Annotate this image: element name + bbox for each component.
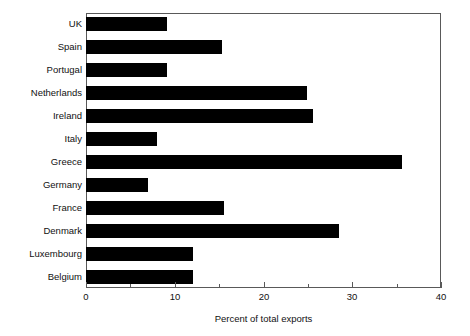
category-label-netherlands: Netherlands: [0, 86, 82, 100]
category-label-italy: Italy: [0, 132, 82, 146]
category-label-denmark: Denmark: [0, 224, 82, 238]
x-tick-major: [441, 282, 442, 288]
bar: [86, 247, 193, 261]
category-label-ireland: Ireland: [0, 109, 82, 123]
bar-row: [86, 224, 441, 238]
category-label-france: France: [0, 201, 82, 215]
category-label-germany: Germany: [0, 178, 82, 192]
bar-row: [86, 201, 441, 215]
bar: [86, 63, 167, 77]
bar-chart: UKSpainPortugalNetherlandsIrelandItalyGr…: [0, 0, 470, 336]
x-tick-label: 10: [170, 291, 181, 303]
x-tick-label: 30: [347, 291, 358, 303]
bar: [86, 86, 307, 100]
bar-row: [86, 109, 441, 123]
category-axis-labels: UKSpainPortugalNetherlandsIrelandItalyGr…: [0, 13, 82, 288]
value-axis-tick-labels: 010203040: [86, 291, 441, 307]
bar-row: [86, 86, 441, 100]
category-label-luxembourg: Luxembourg: [0, 247, 82, 261]
bar-row: [86, 155, 441, 169]
bar: [86, 17, 167, 31]
bar-row: [86, 270, 441, 284]
x-axis-title: Percent of total exports: [86, 313, 441, 324]
bar-row: [86, 17, 441, 31]
bar-row: [86, 247, 441, 261]
bar-row: [86, 132, 441, 146]
x-tick-label: 0: [83, 291, 88, 303]
category-label-greece: Greece: [0, 155, 82, 169]
bar-row: [86, 63, 441, 77]
bar-row: [86, 178, 441, 192]
category-label-spain: Spain: [0, 40, 82, 54]
bar: [86, 40, 222, 54]
x-tick-label: 40: [436, 291, 447, 303]
bars-layer: [86, 13, 441, 288]
x-tick-label: 20: [259, 291, 270, 303]
bar-row: [86, 40, 441, 54]
bar: [86, 155, 402, 169]
bar: [86, 270, 193, 284]
bar: [86, 109, 313, 123]
bar: [86, 178, 148, 192]
category-label-uk: UK: [0, 17, 82, 31]
bar: [86, 224, 339, 238]
bar: [86, 132, 157, 146]
bar: [86, 201, 224, 215]
category-label-portugal: Portugal: [0, 63, 82, 77]
category-label-belgium: Belgium: [0, 270, 82, 284]
